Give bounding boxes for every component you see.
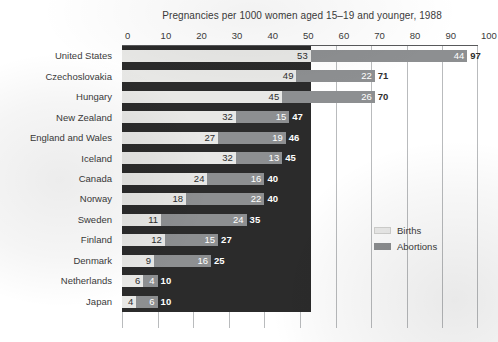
bar-value-births: 6 <box>135 275 143 287</box>
bar-value-births: 53 <box>297 50 311 62</box>
stacked-bar: 4526 <box>122 91 375 103</box>
x-tick-label: 30 <box>229 30 243 41</box>
stacked-bar: 916 <box>122 255 211 267</box>
bar-segment-abortions: 22 <box>186 193 264 205</box>
bar-value-births: 4 <box>128 296 136 308</box>
bar-segment-abortions: 16 <box>207 173 264 185</box>
bar-value-abortions: 13 <box>269 152 283 164</box>
x-tick-label: 60 <box>336 30 350 41</box>
x-tick-label: 80 <box>407 30 421 41</box>
bar-segment-abortions: 16 <box>154 255 211 267</box>
bar-segment-births: 9 <box>122 255 154 267</box>
stacked-bar: 4922 <box>122 70 375 82</box>
value-axis: 0102030405060708090100 <box>122 30 478 44</box>
bar-segment-births: 4 <box>122 296 136 308</box>
abortions-swatch <box>374 243 391 250</box>
bar-segment-abortions: 22 <box>296 70 374 82</box>
bar-value-births: 12 <box>151 234 165 246</box>
stacked-bar: 1215 <box>122 234 218 246</box>
bar-row: 492271 <box>122 66 478 86</box>
stacked-bar: 3215 <box>122 111 289 123</box>
bar-total-label: 27 <box>218 234 232 246</box>
bar-row: 6410 <box>122 271 478 291</box>
bar-total-label: 10 <box>158 296 172 308</box>
bar-total-label: 45 <box>282 152 296 164</box>
bar-segment-births: 27 <box>122 132 218 144</box>
category-label: England and Wales <box>30 132 112 144</box>
bar-segment-abortions: 6 <box>136 296 157 308</box>
bar-value-births: 32 <box>222 152 236 164</box>
bar-segment-abortions: 44 <box>311 50 468 62</box>
stacked-bar: 1124 <box>122 214 247 226</box>
plot-area: 0102030405060708090100 53449749227145267… <box>122 30 478 312</box>
bar-total-label: 25 <box>211 255 225 267</box>
bar-row: 534497 <box>122 46 478 66</box>
bar-value-abortions: 6 <box>149 296 157 308</box>
category-label: Netherlands <box>61 275 112 287</box>
bar-value-abortions: 4 <box>149 275 157 287</box>
category-label: Iceland <box>81 153 112 165</box>
bar-value-abortions: 44 <box>454 50 468 62</box>
bar-value-births: 11 <box>148 214 161 226</box>
bar-total-label: 40 <box>264 193 278 205</box>
bar-segment-births: 11 <box>122 214 161 226</box>
category-label: United States <box>55 50 112 62</box>
bar-segment-births: 32 <box>122 152 236 164</box>
bar-total-label: 97 <box>467 50 481 62</box>
bar-row: 321547 <box>122 107 478 127</box>
bar-segment-abortions: 13 <box>236 152 282 164</box>
bar-segment-births: 24 <box>122 173 207 185</box>
bar-value-abortions: 24 <box>233 214 247 226</box>
bar-total-label: 70 <box>375 91 389 103</box>
category-label: Sweden <box>78 214 112 226</box>
legend-label-births: Births <box>397 225 421 236</box>
bar-value-abortions: 19 <box>272 132 286 144</box>
x-tick-label: 0 <box>122 30 130 41</box>
bar-row: 321345 <box>122 148 478 168</box>
category-label: Japan <box>86 296 112 308</box>
bar-total-label: 10 <box>158 275 172 287</box>
bar-segment-abortions: 15 <box>236 111 289 123</box>
bar-value-births: 18 <box>173 193 187 205</box>
bar-segment-births: 53 <box>122 50 311 62</box>
category-label: Finland <box>81 234 112 246</box>
bar-row: 182240 <box>122 189 478 209</box>
legend-item-abortions: Abortions <box>374 240 437 253</box>
bar-value-abortions: 16 <box>197 255 211 267</box>
bar-value-abortions: 22 <box>251 193 265 205</box>
bar-total-label: 35 <box>247 214 261 226</box>
bar-segment-births: 6 <box>122 275 143 287</box>
bar-value-abortions: 22 <box>361 70 375 82</box>
x-tick-label: 40 <box>264 30 278 41</box>
bar-value-abortions: 15 <box>205 234 219 246</box>
bar-segment-abortions: 26 <box>282 91 375 103</box>
bar-value-abortions: 16 <box>251 173 265 185</box>
stacked-bar: 3213 <box>122 152 282 164</box>
bar-value-abortions: 15 <box>276 111 290 123</box>
legend-label-abortions: Abortions <box>397 241 437 252</box>
chart-canvas: Pregnancies per 1000 women aged 15–19 an… <box>0 0 498 342</box>
bar-total-label: 47 <box>289 111 303 123</box>
bar-value-births: 45 <box>269 91 283 103</box>
category-label: Canada <box>79 173 112 185</box>
births-swatch <box>374 227 391 234</box>
legend-item-births: Births <box>374 224 437 237</box>
bar-value-births: 9 <box>146 255 154 267</box>
bar-total-label: 71 <box>375 70 389 82</box>
bar-segment-births: 49 <box>122 70 296 82</box>
bar-value-births: 27 <box>205 132 219 144</box>
bar-segment-abortions: 19 <box>218 132 286 144</box>
bar-segment-births: 32 <box>122 111 236 123</box>
bar-value-births: 32 <box>222 111 236 123</box>
stacked-bar: 1822 <box>122 193 264 205</box>
chart-legend: Births Abortions <box>374 224 437 256</box>
bar-row: 241640 <box>122 169 478 189</box>
chart-title: Pregnancies per 1000 women aged 15–19 an… <box>122 10 482 21</box>
x-tick-label: 50 <box>300 30 314 41</box>
bar-segment-abortions: 15 <box>165 234 218 246</box>
bar-segment-abortions: 4 <box>143 275 157 287</box>
category-label: New Zealand <box>56 112 112 124</box>
bar-row: 271946 <box>122 128 478 148</box>
bar-segment-births: 18 <box>122 193 186 205</box>
bar-segment-births: 12 <box>122 234 165 246</box>
